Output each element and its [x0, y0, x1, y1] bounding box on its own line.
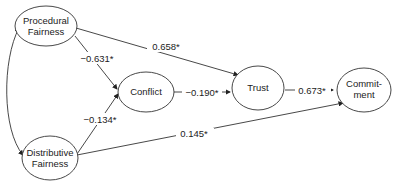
node-trust: Trust — [232, 66, 284, 110]
svg-text:Trust: Trust — [247, 82, 269, 93]
node-distributive-fairness: Distributive Fairness — [22, 136, 78, 180]
svg-text:Conflict: Conflict — [130, 86, 162, 97]
edge-label-procedural-trust: 0.658* — [152, 41, 180, 52]
svg-text:Distributive: Distributive — [27, 147, 74, 158]
edge-procedural-distributive — [7, 28, 23, 155]
edge-label-distributive-conflict: −0.134* — [83, 114, 116, 125]
node-conflict: Conflict — [118, 72, 174, 112]
edge-label-procedural-conflict: −0.631* — [80, 53, 113, 64]
path-diagram: 0.658* −0.631* −0.134* −0.190* 0.673* 0.… — [0, 0, 395, 184]
svg-text:ment: ment — [353, 89, 374, 100]
node-procedural-fairness: Procedural Fairness — [15, 6, 77, 46]
edge-label-conflict-trust: −0.190* — [185, 87, 218, 98]
edge-label-trust-commitment: 0.673* — [298, 85, 326, 96]
edge-label-distributive-commitment: 0.145* — [180, 128, 208, 139]
svg-text:Commit-: Commit- — [346, 78, 382, 89]
node-commitment: Commit- ment — [337, 68, 391, 112]
svg-text:Fairness: Fairness — [32, 158, 69, 169]
svg-text:Procedural: Procedural — [23, 15, 69, 26]
diagram-canvas: 0.658* −0.631* −0.134* −0.190* 0.673* 0.… — [0, 0, 395, 184]
svg-text:Fairness: Fairness — [28, 26, 65, 37]
